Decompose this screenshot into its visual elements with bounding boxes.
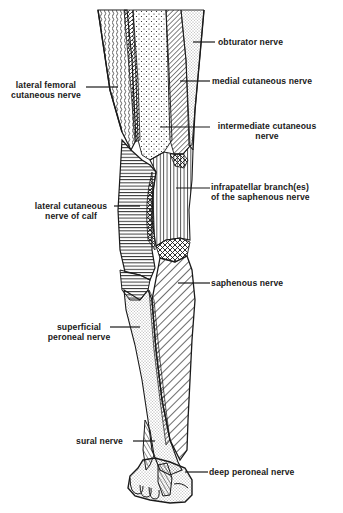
label-obturator-nerve: obturator nerve <box>218 37 283 47</box>
label-line: lateral femoral <box>8 80 84 90</box>
label-line: of the saphenous nerve <box>211 192 310 202</box>
label-text: saphenous nerve <box>211 278 283 288</box>
label-line: lateral cutaneous <box>28 201 114 211</box>
label-line: nerve of calf <box>28 211 114 221</box>
label-text: obturator nerve <box>218 37 283 47</box>
label-sural-nerve: sural nerve <box>76 436 123 446</box>
label-lateral-femoral-cutaneous-nerve: lateral femoral cutaneous nerve <box>8 80 84 100</box>
label-infrapatellar-branches: infrapatellar branch(es) of the saphenou… <box>211 182 310 202</box>
label-intermediate-cutaneous-nerve: intermediate cutaneous nerve <box>211 121 323 141</box>
label-line: nerve <box>211 131 323 141</box>
label-medial-cutaneous-nerve: medial cutaneous nerve <box>212 76 312 86</box>
label-line: intermediate cutaneous <box>211 121 323 131</box>
label-line: peroneal nerve <box>40 332 118 342</box>
label-text: medial cutaneous nerve <box>212 76 312 86</box>
label-text: deep peroneal nerve <box>209 467 294 477</box>
label-deep-peroneal-nerve: deep peroneal nerve <box>209 467 294 477</box>
label-line: infrapatellar branch(es) <box>211 182 310 192</box>
label-line: cutaneous nerve <box>8 90 84 100</box>
label-saphenous-nerve: saphenous nerve <box>211 278 283 288</box>
label-superficial-peroneal-nerve: superficial peroneal nerve <box>40 322 118 342</box>
thigh-region <box>98 10 204 160</box>
label-text: sural nerve <box>76 436 123 446</box>
label-lateral-cutaneous-nerve-of-calf: lateral cutaneous nerve of calf <box>28 201 114 221</box>
label-line: superficial <box>40 322 118 332</box>
lower-leg-region <box>120 256 195 475</box>
